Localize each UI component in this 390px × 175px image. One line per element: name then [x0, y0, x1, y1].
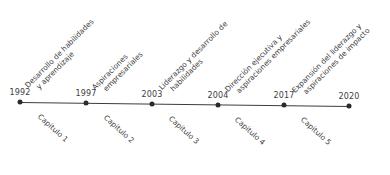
year-label: 2003: [142, 90, 163, 99]
timeline-point-2004: [216, 103, 221, 108]
description-line: Liderazgo y desarrollo de: [157, 19, 229, 91]
chapter-label: Capítulo 3: [167, 114, 201, 146]
timeline-point-2017: [282, 103, 287, 108]
description-line: aspiraciones de impacto: [296, 26, 371, 101]
year-label: 2020: [339, 92, 360, 101]
year-label: 2017: [274, 91, 295, 100]
timeline-point-1997: [84, 101, 89, 106]
timeline-diagram: 1992 1997 2003 2004 2017 2020 Desarrollo…: [0, 0, 390, 175]
description-line: Dirección ejecutiva y: [223, 11, 306, 94]
description-line: Desarrollo de habilidades: [23, 17, 96, 90]
timeline-point-1992: [18, 100, 23, 105]
chapter-label: Capítulo 5: [299, 115, 333, 147]
event-description: Aspiraciones empresariales: [90, 43, 145, 98]
chapter-label: Capítulo 4: [233, 115, 267, 147]
year-label: 2004: [208, 91, 229, 100]
timeline-point-2003: [150, 102, 155, 107]
chapter-label: Capítulo 2: [102, 113, 136, 145]
year-label: 1992: [10, 88, 31, 97]
chapter-label: Capítulo 1: [36, 112, 70, 144]
timeline-axis-line: [20, 102, 350, 107]
year-label: 1997: [76, 89, 97, 98]
timeline-point-2020: [347, 104, 352, 109]
